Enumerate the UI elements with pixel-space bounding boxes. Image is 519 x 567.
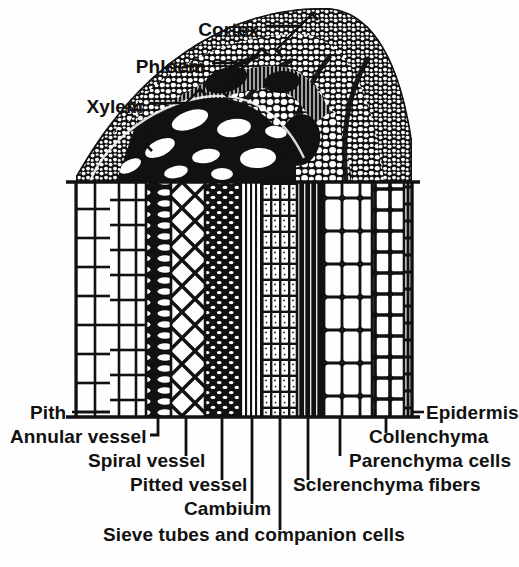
- zone-pith-outer: [76, 182, 110, 417]
- label-phloem: Phloem: [136, 57, 205, 76]
- label-sclerenchyma-fibers: Sclerenchyma fibers: [293, 475, 481, 494]
- label-cortex: Cortex: [198, 20, 259, 39]
- label-annular-vessel: Annular vessel: [10, 427, 147, 446]
- label-epidermis: Epidermis: [426, 403, 519, 422]
- label-spiral-vessel: Spiral vessel: [88, 451, 206, 470]
- zone-annular-vessel: [146, 182, 171, 417]
- leader-annular-vessel: [150, 417, 158, 435]
- label-cambium: Cambium: [184, 499, 271, 518]
- zone-parenchyma-cells: [322, 182, 372, 417]
- label-pitted-vessel: Pitted vessel: [130, 475, 247, 494]
- zone-sclerenchyma-fibers: [297, 182, 322, 417]
- zone-cambium: [240, 182, 262, 417]
- zone-collenchyma: [372, 182, 404, 417]
- zone-pitted-vessel: [205, 182, 240, 417]
- longitudinal-section: [76, 182, 412, 417]
- label-parenchyma-cells: Parenchyma cells: [349, 451, 511, 470]
- label-sieve-tubes: Sieve tubes and companion cells: [103, 525, 405, 544]
- zone-spiral-vessel: [171, 182, 205, 417]
- label-pith: Pith: [30, 403, 66, 422]
- label-xylem: Xylem: [87, 97, 143, 116]
- zone-sieve-tubes: [262, 182, 297, 417]
- label-collenchyma: Collenchyma: [369, 427, 488, 446]
